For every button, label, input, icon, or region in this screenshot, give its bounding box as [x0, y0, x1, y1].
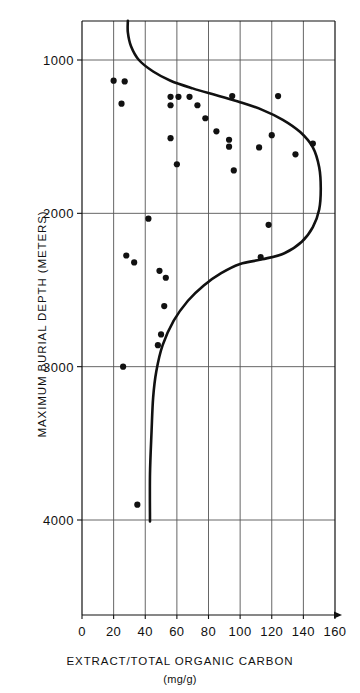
- scatter-plot-canvas: [0, 0, 360, 693]
- x-tick-label-100: 100: [229, 624, 252, 639]
- data-point: [155, 342, 161, 348]
- data-point: [226, 144, 232, 150]
- data-point: [231, 167, 237, 173]
- data-point: [167, 135, 173, 141]
- x-tick-label-120: 120: [260, 624, 283, 639]
- data-point: [167, 102, 173, 108]
- y-tick-label-4000: 4000: [18, 513, 74, 528]
- x-axis-title: EXTRACT/TOTAL ORGANIC CARBON: [0, 655, 360, 667]
- figure-container: 1000200030004000 020406080100120140160 M…: [0, 0, 360, 693]
- x-tick-label-40: 40: [138, 624, 153, 639]
- x-tick-label-160: 160: [323, 624, 346, 639]
- data-point: [123, 252, 129, 258]
- data-point: [194, 102, 200, 108]
- data-point: [186, 94, 192, 100]
- data-point: [158, 331, 164, 337]
- data-point: [258, 254, 264, 260]
- data-point: [120, 364, 126, 370]
- data-point: [122, 78, 128, 84]
- data-point: [256, 144, 262, 150]
- data-point: [156, 268, 162, 274]
- x-axis-arrowhead: [334, 612, 342, 619]
- data-point: [226, 137, 232, 143]
- x-tick-label-0: 0: [78, 624, 86, 639]
- x-tick-label-80: 80: [201, 624, 216, 639]
- data-point: [292, 151, 298, 157]
- data-point: [175, 94, 181, 100]
- data-point: [265, 222, 271, 228]
- data-point: [145, 216, 151, 222]
- data-points-group: [111, 78, 316, 508]
- x-tick-label-60: 60: [169, 624, 184, 639]
- data-point: [269, 132, 275, 138]
- x-tick-label-20: 20: [106, 624, 121, 639]
- data-point: [161, 303, 167, 309]
- data-point: [310, 140, 316, 146]
- x-tick-label-140: 140: [292, 624, 315, 639]
- data-point: [134, 502, 140, 508]
- y-axis-title: MAXIMUM BURIAL DEPTH (METERS): [36, 204, 48, 444]
- data-point: [229, 93, 235, 99]
- data-point: [174, 161, 180, 167]
- y-tick-label-1000: 1000: [18, 53, 74, 68]
- data-point: [167, 94, 173, 100]
- data-point: [131, 259, 137, 265]
- data-point: [111, 78, 117, 84]
- data-point: [202, 115, 208, 121]
- data-point: [275, 93, 281, 99]
- x-axis-units-label: (mg/g): [0, 673, 360, 685]
- gridlines-group: [77, 21, 335, 615]
- data-point: [118, 101, 124, 107]
- data-point: [213, 128, 219, 134]
- data-point: [163, 275, 169, 281]
